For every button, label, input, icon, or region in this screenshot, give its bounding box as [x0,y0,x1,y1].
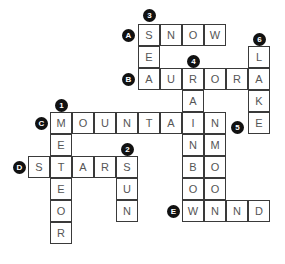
crossword-cell[interactable]: M [204,134,226,156]
crossword-cell[interactable]: A [182,90,204,112]
crossword-cell[interactable]: O [204,178,226,200]
crossword-cell[interactable]: N [226,200,248,222]
clue-number-badge: 6 [253,33,266,46]
crossword-cell[interactable]: O [204,156,226,178]
crossword-cell[interactable]: N [204,200,226,222]
crossword-cell[interactable]: O [72,112,94,134]
crossword-cell[interactable]: S [138,24,160,46]
clue-number-badge: 5 [231,121,244,134]
crossword-cell[interactable]: W [182,200,204,222]
crossword-cell[interactable]: E [248,112,270,134]
crossword-cell[interactable]: U [116,178,138,200]
crossword-cell[interactable]: A [138,68,160,90]
crossword-cell[interactable]: M [50,112,72,134]
crossword-cell[interactable]: O [182,178,204,200]
crossword-cell[interactable]: N [160,24,182,46]
crossword-cell[interactable]: O [50,200,72,222]
crossword-cell[interactable]: A [248,68,270,90]
clue-number-badge: 2 [121,143,134,156]
crossword-cell[interactable]: N [116,112,138,134]
crossword-cell[interactable]: B [182,156,204,178]
crossword-cell[interactable]: A [160,112,182,134]
crossword-cell[interactable]: D [248,200,270,222]
clue-number-badge: E [167,205,180,218]
crossword-cell[interactable]: R [94,156,116,178]
crossword-cell[interactable]: E [50,178,72,200]
crossword-cell[interactable]: R [50,222,72,244]
crossword-cell[interactable]: K [248,90,270,112]
crossword-cell[interactable]: W [204,24,226,46]
crossword-cell[interactable]: E [50,134,72,156]
clue-number-badge: 4 [187,55,200,68]
clue-number-badge: B [122,73,135,86]
crossword-cell[interactable]: I [182,112,204,134]
clue-number-badge: 3 [143,9,156,22]
clue-number-badge: A [122,29,135,42]
crossword-cell[interactable]: S [28,156,50,178]
clue-number-badge: C [35,117,48,130]
clue-number-badge: 1 [55,99,68,112]
crossword-cell[interactable]: R [182,68,204,90]
crossword-cell[interactable]: N [182,134,204,156]
crossword-grid: SNOWAURORAMOUNTAINSTARSWNNDEEORUNEANBOMO… [0,0,285,264]
clue-number-badge: D [13,161,26,174]
crossword-cell[interactable]: U [94,112,116,134]
crossword-cell[interactable]: A [72,156,94,178]
crossword-cell[interactable]: N [204,112,226,134]
crossword-cell[interactable]: N [116,200,138,222]
crossword-cell[interactable]: R [226,68,248,90]
crossword-cell[interactable]: O [182,24,204,46]
crossword-cell[interactable]: S [116,156,138,178]
crossword-cell[interactable]: T [50,156,72,178]
crossword-cell[interactable]: O [204,68,226,90]
crossword-cell[interactable]: U [160,68,182,90]
crossword-cell[interactable]: L [248,46,270,68]
crossword-cell[interactable]: E [138,46,160,68]
crossword-cell[interactable]: T [138,112,160,134]
